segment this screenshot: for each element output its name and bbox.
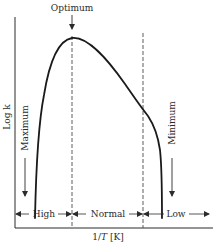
region-high: High xyxy=(16,209,71,219)
region-normal-label: Normal xyxy=(91,209,125,219)
x-axis-label: 1/T [K] xyxy=(92,232,123,242)
optimum-label: Optimum xyxy=(51,3,94,13)
y-axis-label: Log k xyxy=(2,104,12,130)
region-high-label: High xyxy=(33,209,55,219)
region-low-label: Low xyxy=(166,209,185,219)
region-low: Low xyxy=(144,209,209,219)
minimum-label: Minimum xyxy=(167,101,177,145)
arrhenius-chart: Optimum Log k Maximum Minimum High Norma… xyxy=(0,0,213,243)
maximum-label: Maximum xyxy=(20,105,30,151)
region-normal: Normal xyxy=(73,209,142,219)
axes xyxy=(15,17,213,228)
